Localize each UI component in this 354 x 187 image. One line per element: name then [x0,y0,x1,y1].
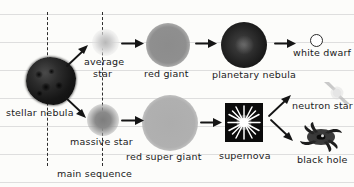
arrow-nebula-to-average-star [66,45,90,67]
label-white-dwarf: white dwarf [293,47,351,58]
supernova-object [225,103,263,142]
label-neutron-star: neutron star [292,100,353,111]
arrow-planetary-nebula-to-white-dwarf [275,38,296,49]
stellar-evolution-diagram: stellar nebula average star red giant pl… [0,0,354,187]
planetary-nebula-object [221,22,267,68]
label-massive-star: massive star [70,136,133,147]
red-giant-object [146,23,190,67]
arrow-massive-star-to-red-super-giant [122,115,144,126]
red-super-giant-object [142,95,198,151]
black-hole-object [299,122,343,152]
paper-rule-line [0,14,354,15]
arrow-red-super-giant-to-supernova [201,117,222,128]
white-dwarf-object [310,34,323,47]
paper-rule-line [0,182,354,183]
label-black-hole: black hole [297,154,348,165]
label-main-sequence: main sequence [57,168,132,179]
arrow-supernova-to-black-hole [270,119,295,141]
label-supernova: supernova [219,150,271,161]
label-planetary-nebula: planetary nebula [212,69,296,80]
massive-star-object [87,104,119,136]
arrow-supernova-to-neutron-star [268,95,293,117]
label-average-star-line2: star [93,68,112,79]
average-star-object [92,29,119,56]
arrow-average-star-to-red-giant [122,38,144,49]
arrow-red-giant-to-planetary-nebula [196,38,217,49]
label-red-super-giant: red super giant [126,151,202,162]
label-red-giant: red giant [144,68,189,79]
label-average-star-line1: average [84,56,124,67]
arrow-nebula-to-massive-star [64,96,88,118]
